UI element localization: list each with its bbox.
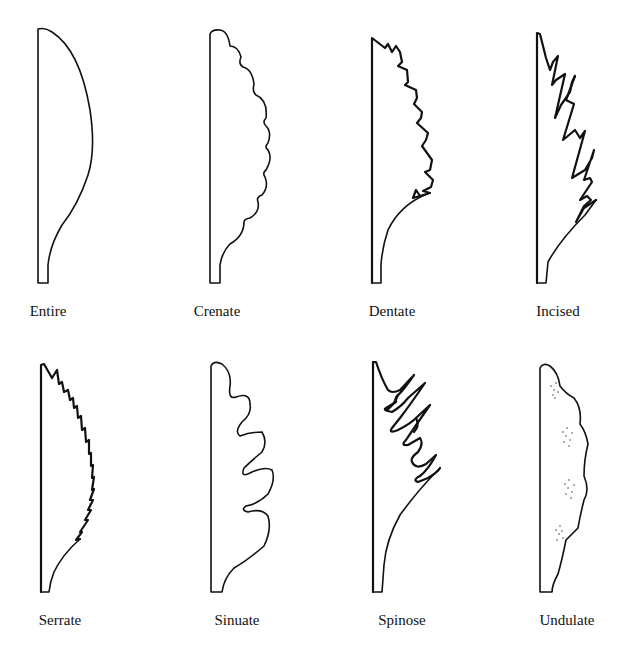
leaf-entire-illustration bbox=[38, 28, 93, 283]
label-serrate: Serrate bbox=[39, 613, 81, 628]
leaf-dentate-illustration bbox=[372, 38, 433, 283]
leaf-serrate-illustration bbox=[41, 364, 94, 592]
label-entire: Entire bbox=[30, 304, 67, 319]
label-crenate: Crenate bbox=[194, 304, 241, 319]
leaf-margin-diagram: Entire Crenate Dentate Incised Serrate S… bbox=[0, 0, 637, 667]
label-dentate: Dentate bbox=[369, 304, 416, 319]
leaf-spinose-illustration bbox=[373, 362, 440, 592]
label-spinose: Spinose bbox=[378, 613, 426, 628]
leaf-sinuate-illustration bbox=[211, 362, 273, 592]
label-undulate: Undulate bbox=[540, 613, 595, 628]
label-incised: Incised bbox=[536, 304, 579, 319]
leaf-undulate-illustration bbox=[540, 364, 588, 592]
label-sinuate: Sinuate bbox=[215, 613, 260, 628]
leaf-incised-illustration bbox=[537, 33, 596, 283]
leaf-crenate-illustration bbox=[210, 30, 270, 283]
stipple-shading bbox=[550, 382, 575, 541]
